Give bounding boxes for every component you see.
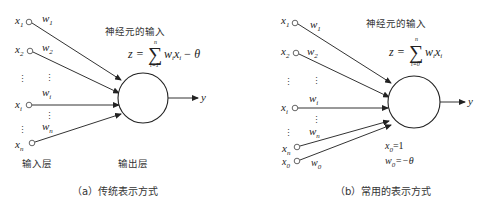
input-xi-label: xi bbox=[14, 98, 22, 113]
panel-b-common: x1 x2 ⋮ xi ⋮ xn x0 w1 w2 ⋮ wi ⋮ wn w0 y … bbox=[280, 14, 473, 197]
weight-w1-label: w1 bbox=[42, 12, 53, 27]
input-xn-label: xn bbox=[14, 138, 24, 153]
input-node-2 bbox=[27, 48, 33, 54]
input-node-0 bbox=[294, 158, 300, 164]
sum-upper-bound: n bbox=[154, 39, 157, 45]
ellipsis-inputs-2: ⋮ bbox=[284, 128, 293, 138]
input-node-1 bbox=[292, 20, 298, 26]
neuron-diagrams: x1 x2 ⋮ xi ⋮ xn w1 w2 ⋮ wi ⋮ wn y 神经元的输入… bbox=[0, 0, 490, 204]
weight-wn-label: wn bbox=[309, 125, 320, 140]
input-xn-label: xn bbox=[281, 142, 291, 157]
weight-w0-label: w0 bbox=[311, 157, 322, 171]
ellipsis-weights-2: ⋮ bbox=[312, 115, 321, 125]
caption-a: （a）传统表示方式 bbox=[72, 185, 158, 197]
input-x0-label: x0 bbox=[281, 156, 290, 170]
neuron-circle bbox=[388, 76, 440, 128]
neuron-input-label: 神经元的输入 bbox=[105, 26, 165, 37]
input-node-1 bbox=[26, 19, 32, 25]
bias-w0-note: w0=−θ bbox=[385, 155, 414, 169]
output-y-label: y bbox=[200, 91, 206, 103]
input-node-2 bbox=[293, 50, 299, 56]
ellipsis-weights-1: ⋮ bbox=[312, 76, 321, 86]
sum-upper-bound: n bbox=[415, 36, 418, 42]
neuron-circle bbox=[118, 73, 168, 123]
weight-wi-label: wi bbox=[309, 92, 318, 107]
neuron-input-label: 神经元的输入 bbox=[366, 18, 426, 29]
weight-w2-label: w2 bbox=[42, 41, 53, 56]
input-node-i bbox=[292, 105, 298, 111]
ellipsis-inputs-2: ⋮ bbox=[18, 125, 27, 135]
bias-x0-note: x0=1 bbox=[384, 140, 404, 154]
formula-lhs: z = bbox=[388, 45, 405, 59]
panel-a-traditional: x1 x2 ⋮ xi ⋮ xn w1 w2 ⋮ wi ⋮ wn y 神经元的输入… bbox=[14, 12, 206, 197]
weight-wi-label: wi bbox=[42, 86, 51, 101]
caption-b: （b）常用的表示方式 bbox=[335, 185, 431, 197]
input-x1-label: x1 bbox=[280, 14, 289, 29]
input-x2-label: x2 bbox=[14, 43, 24, 58]
input-x1-label: x1 bbox=[14, 14, 23, 29]
input-node-n bbox=[29, 140, 35, 146]
weight-wn-label: wn bbox=[42, 120, 53, 135]
output-layer-label: 输出层 bbox=[118, 158, 148, 169]
input-node-n bbox=[294, 144, 300, 150]
weight-w1-label: w1 bbox=[310, 18, 321, 33]
sum-lower-bound: i=0 bbox=[411, 61, 420, 67]
input-xi-label: xi bbox=[280, 101, 288, 116]
ellipsis-inputs-1: ⋮ bbox=[284, 77, 293, 87]
formula-body: wixi− θ bbox=[164, 47, 200, 62]
ellipsis-inputs-1: ⋮ bbox=[18, 74, 27, 84]
output-y-label: y bbox=[467, 95, 473, 107]
input-node-i bbox=[26, 102, 32, 108]
input-layer-label: 输入层 bbox=[22, 158, 52, 169]
formula-body: wixi bbox=[425, 45, 442, 60]
input-x2-label: x2 bbox=[280, 45, 290, 60]
weight-w2-label: w2 bbox=[307, 45, 318, 60]
ellipsis-weights-1: ⋮ bbox=[45, 73, 54, 83]
formula-lhs: z = bbox=[127, 47, 144, 61]
sum-lower-bound: i=1 bbox=[150, 62, 159, 68]
